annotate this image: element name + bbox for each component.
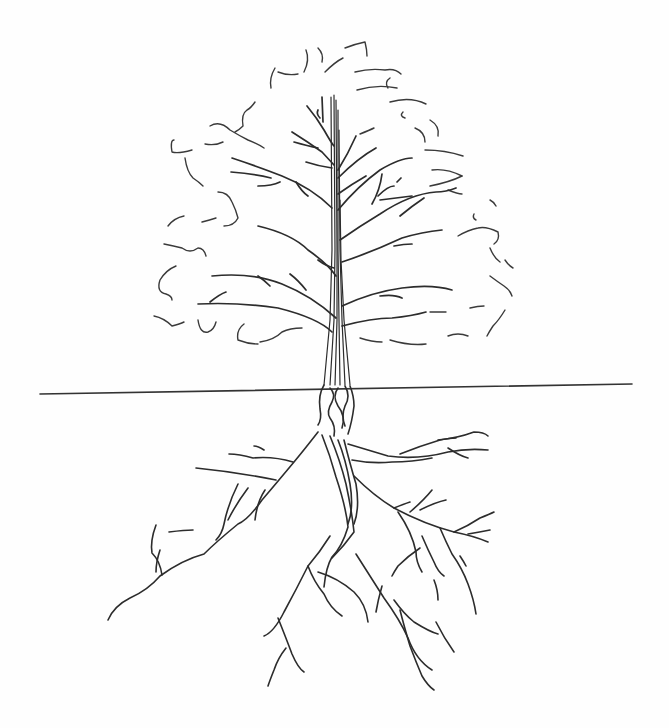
trunk [324, 95, 350, 385]
roots [108, 385, 494, 690]
crown-outline [154, 42, 513, 345]
tree-sketch [0, 0, 669, 728]
sketch-canvas [0, 0, 669, 728]
